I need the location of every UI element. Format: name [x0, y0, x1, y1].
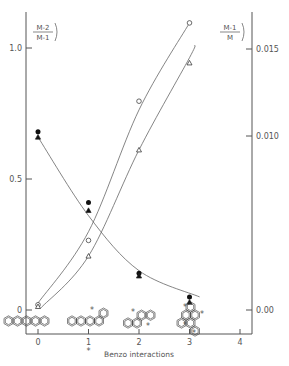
fraction-numerator: M-2 — [36, 24, 49, 32]
x-tick-label: 3 — [187, 338, 192, 347]
inner-ring-icon — [78, 317, 84, 324]
open-circle-marker — [86, 238, 91, 243]
paren-icon — [55, 23, 57, 41]
open-circle-marker — [187, 21, 192, 26]
asterisk-mark: * — [183, 303, 187, 312]
molecule-2-icon: ** — [124, 308, 156, 331]
molecule-3-icon: **** — [177, 302, 204, 338]
x-axis-title: Benzo interactions — [104, 350, 174, 359]
asterisk-mark: * — [131, 308, 135, 317]
fraction-denominator: M — [227, 34, 233, 42]
inner-ring-icon — [23, 317, 30, 324]
left-tick-label: 0.5 — [9, 175, 22, 184]
x-tick-label: 1 — [86, 338, 91, 347]
x-tick-label: 2 — [136, 338, 141, 347]
left-tick-label: 0 — [17, 306, 22, 315]
plot-area: 00.51.00.000.0100.01501234*Benzo interac… — [0, 0, 289, 366]
right-tick-label: 0.00 — [256, 306, 274, 315]
inner-ring-icon — [192, 311, 198, 318]
right-axis-title: M-1M — [220, 23, 244, 42]
asterisk-mark: * — [183, 321, 187, 330]
open-triangle-fit-curve — [41, 46, 196, 309]
left-axis-title: M-2M-1 — [33, 23, 57, 42]
asterisk-mark: * — [146, 322, 150, 331]
decay-fit-curve — [38, 137, 200, 297]
filled-circle-marker — [187, 294, 192, 299]
inner-ring-icon — [5, 317, 11, 324]
paren-icon — [242, 23, 244, 41]
inner-ring-icon — [138, 312, 145, 319]
inner-ring-icon — [69, 317, 75, 324]
left-tick-label: 1.0 — [9, 44, 22, 53]
chart: 00.51.00.000.0100.01501234*Benzo interac… — [0, 0, 289, 366]
asterisk-mark: * — [90, 306, 94, 315]
open-triangle-marker — [86, 254, 91, 259]
fraction-denominator: M-1 — [36, 34, 49, 42]
inner-ring-icon — [125, 319, 131, 326]
filled-circle-marker — [36, 129, 41, 134]
inner-ring-icon — [87, 317, 94, 324]
molecule-1-icon: * — [68, 306, 109, 326]
inner-ring-icon — [134, 319, 140, 326]
asterisk-mark: * — [87, 347, 91, 356]
filled-triangle-marker — [86, 208, 91, 213]
open-circle-marker — [137, 99, 142, 104]
filled-triangle-marker — [35, 134, 40, 139]
open-triangle-marker — [137, 147, 142, 152]
inner-ring-icon — [14, 317, 20, 324]
fraction-numerator: M-1 — [223, 24, 236, 32]
right-tick-label: 0.010 — [256, 132, 279, 141]
inner-ring-icon — [187, 319, 193, 326]
asterisk-mark: * — [200, 310, 204, 319]
right-tick-label: 0.015 — [256, 45, 279, 54]
open-circle-fit-curve — [38, 23, 190, 303]
filled-circle-marker — [86, 200, 91, 205]
x-tick-label: 4 — [237, 338, 242, 347]
inner-ring-icon — [96, 317, 103, 324]
inner-ring-icon — [32, 317, 39, 324]
asterisk-mark: * — [192, 329, 196, 338]
inner-ring-icon — [147, 312, 154, 319]
inner-ring-icon — [183, 311, 189, 318]
x-tick-label: 0 — [35, 338, 40, 347]
inner-ring-icon — [41, 317, 48, 324]
inner-ring-icon — [100, 310, 107, 317]
